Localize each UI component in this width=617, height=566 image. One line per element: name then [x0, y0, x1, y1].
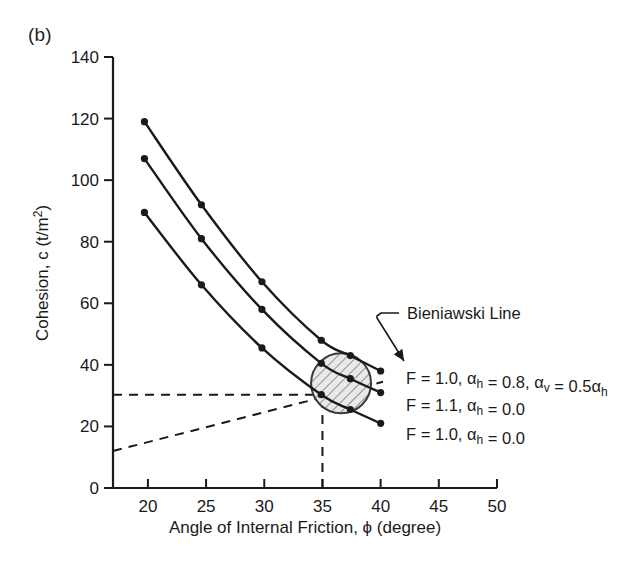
series-curve [144, 122, 380, 371]
chart-canvas: 020406080100120140 20253035404550 Bienia… [0, 0, 617, 566]
data-point-marker [198, 281, 205, 288]
x-tick-label: 40 [371, 497, 390, 516]
series-label-2: F = 1.1, αh = 0.0 [406, 396, 525, 418]
data-point-marker [318, 360, 325, 367]
y-axis-title: Cohesion, c (t/m2) [31, 205, 52, 341]
bieniawski-leader-line [377, 313, 404, 361]
data-series-group [141, 118, 384, 427]
bieniawski-callout: Bieniawski Line [377, 304, 521, 361]
x-tick-label: 45 [429, 497, 448, 516]
series-label-3: F = 1.0, αh = 0.0 [406, 425, 525, 447]
y-tick-label: 140 [71, 48, 99, 67]
data-point-marker [318, 391, 325, 398]
series-1 [141, 118, 384, 375]
x-tick-label: 50 [488, 497, 507, 516]
data-point-marker [318, 337, 325, 344]
data-point-marker [141, 209, 148, 216]
y-tick-label: 80 [80, 233, 99, 252]
x-tick-label: 30 [255, 497, 274, 516]
data-point-marker [377, 367, 384, 374]
data-point-marker [198, 201, 205, 208]
y-tick-label: 60 [80, 294, 99, 313]
data-point-marker [377, 389, 384, 396]
y-tick-label: 40 [80, 356, 99, 375]
y-tick-label: 20 [80, 417, 99, 436]
y-tick-marks [104, 57, 113, 488]
data-point-marker [377, 420, 384, 427]
data-point-marker [198, 235, 205, 242]
data-point-marker [141, 155, 148, 162]
data-point-marker [347, 352, 354, 359]
y-tick-labels: 020406080100120140 [71, 48, 99, 498]
series-inline-labels: F = 1.0, αh = 0.8, αv = 0.5αhF = 1.1, αh… [406, 369, 608, 447]
data-point-marker [258, 306, 265, 313]
data-point-marker [347, 406, 354, 413]
data-point-marker [258, 344, 265, 351]
x-tick-label: 35 [313, 497, 332, 516]
y-tick-label: 0 [90, 479, 99, 498]
figure-panel-b: (b) 020406080100120140 20253035404550 [0, 0, 617, 566]
bieniawski-line-label: Bieniawski Line [407, 304, 521, 322]
x-tick-label: 20 [138, 497, 157, 516]
x-tick-label: 25 [197, 497, 216, 516]
data-point-marker [141, 118, 148, 125]
series-label-1: F = 1.0, αh = 0.8, αv = 0.5αh [406, 369, 608, 399]
x-tick-labels: 20253035404550 [138, 497, 506, 516]
y-tick-label: 100 [71, 171, 99, 190]
y-tick-label: 120 [71, 110, 99, 129]
x-axis-title: Angle of Internal Friction, ϕ (degree) [169, 518, 441, 537]
data-point-marker [258, 278, 265, 285]
data-point-marker [347, 375, 354, 382]
